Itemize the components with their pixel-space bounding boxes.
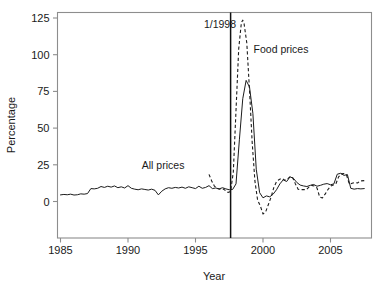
x-tick-label-2005: 2005	[318, 244, 342, 256]
y-axis-title: Percentage	[5, 97, 17, 153]
y-tick-label-125: 125	[31, 12, 49, 24]
x-tick-label-2000: 2000	[251, 244, 275, 256]
chart-canvas: 0255075100125 19851990199520002005 1/199…	[0, 0, 385, 293]
y-tick-label-75: 75	[37, 85, 49, 97]
x-axis-title: Year	[203, 270, 226, 282]
y-tick-label-0: 0	[43, 196, 49, 208]
all-prices-label: All prices	[142, 159, 185, 171]
x-tick-label-1985: 1985	[48, 244, 72, 256]
y-tick-label-100: 100	[31, 49, 49, 61]
x-tick-label-1990: 1990	[116, 244, 140, 256]
price-inflation-line-chart: 0255075100125 19851990199520002005 1/199…	[0, 0, 385, 293]
y-tick-label-50: 50	[37, 122, 49, 134]
event-line-label: 1/1998	[204, 18, 236, 30]
y-tick-label-25: 25	[37, 159, 49, 171]
x-tick-label-1995: 1995	[183, 244, 207, 256]
food-prices-label: Food prices	[254, 43, 309, 55]
